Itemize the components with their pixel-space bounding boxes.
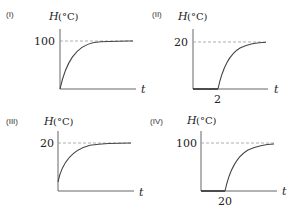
panel-label: (I) [6,10,14,19]
asymptote-label: 20 [40,137,54,150]
panel-label: (IV) [150,117,163,126]
x-tick-label: 20 [218,195,232,208]
x-axis-label: t [141,83,146,96]
x-axis-label: t [282,185,287,198]
y-axis-unit: (°C) [58,11,79,22]
curve [218,42,266,89]
panel-label: (II) [152,10,162,19]
curve [225,144,274,191]
y-axis-unit: (°C) [196,115,217,126]
y-axis-unit: (°C) [53,116,74,127]
x-axis-label: t [274,83,279,96]
curve [60,41,133,89]
curve [58,143,131,182]
panel-label: (III) [6,117,18,126]
x-axis-label: t [139,186,144,199]
panel-ii: (II) H (°C) 20 t 2 [152,10,279,106]
y-axis-unit: (°C) [187,11,208,22]
x-tick-label: 2 [214,93,221,106]
panel-i: (I) H (°C) 100 t [6,10,146,96]
panel-iii: (III) H (°C) 20 t [6,115,144,199]
asymptote-label: 100 [34,35,55,48]
asymptote-label: 100 [176,137,197,150]
panel-iv: (IV) H (°C) 100 t 20 [150,114,287,208]
four-panel-graph-figure: (I) H (°C) 100 t (II) H (°C) 20 t 2 (III… [0,0,300,214]
asymptote-label: 20 [174,36,188,49]
